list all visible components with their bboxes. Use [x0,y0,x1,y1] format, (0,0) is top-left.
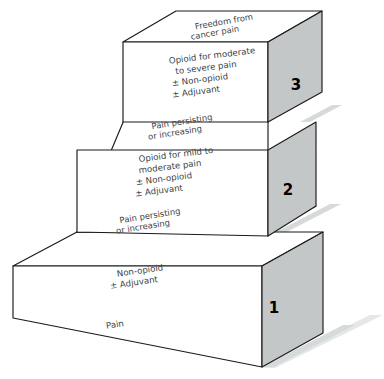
step-3-number: 3 [291,76,301,94]
ladder-svg: Freedom from cancer pain Opioid for mode… [0,0,384,379]
shadow-band-step3 [300,105,342,122]
step-2-block [77,120,316,236]
step-2-number: 2 [283,181,293,199]
step-1-number: 1 [269,299,279,317]
who-analgesic-ladder-diagram: Freedom from cancer pain Opioid for mode… [0,0,384,379]
